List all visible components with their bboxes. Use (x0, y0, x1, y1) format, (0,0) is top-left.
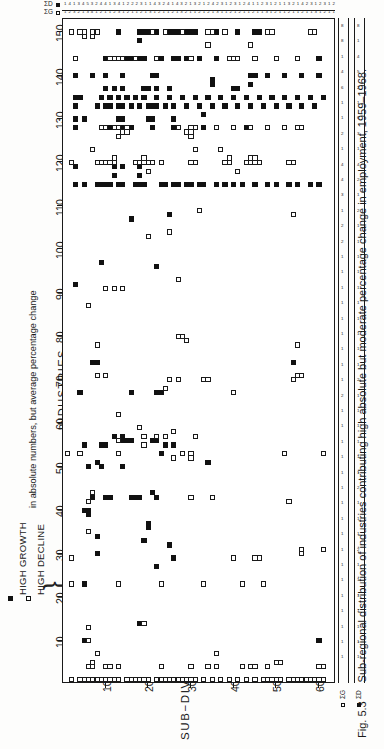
point-high-decline (193, 434, 198, 439)
point-high-growth (291, 360, 296, 365)
point-high-decline (124, 129, 129, 134)
top-marginal-value: 1 (149, 2, 151, 6)
point-high-growth (218, 95, 223, 100)
top-marginal-rule (62, 18, 335, 19)
top-marginal-value: 3 (234, 2, 236, 6)
point-high-decline (252, 677, 257, 682)
top-marginal-value: 1 (270, 2, 272, 6)
point-high-growth (99, 260, 104, 265)
point-high-growth (316, 56, 321, 61)
point-high-decline (244, 677, 249, 682)
marginal-total-value: 8 (341, 24, 343, 28)
top-marginal-value: 1 (122, 2, 124, 6)
top-marginal-value: 3 (77, 2, 79, 6)
point-high-decline (188, 455, 193, 460)
point-high-decline (201, 677, 206, 682)
point-high-decline (210, 29, 215, 34)
point-high-growth (248, 82, 253, 87)
point-high-growth (154, 564, 159, 569)
point-high-decline (120, 56, 125, 61)
marginal-total-value: 3 (341, 193, 343, 197)
marginal-total-value: 1 (341, 116, 343, 120)
point-high-growth (308, 182, 313, 187)
top-marginal-value: 2 (185, 2, 187, 6)
top-marginal-value: 3 (310, 2, 312, 6)
point-high-growth (73, 103, 78, 108)
point-high-decline (141, 442, 146, 447)
point-high-decline (86, 529, 91, 534)
point-high-growth (316, 182, 321, 187)
point-high-growth (73, 125, 78, 130)
point-high-decline (299, 551, 304, 556)
point-high-decline (95, 373, 100, 378)
point-high-growth (112, 86, 117, 91)
scatter-plot (62, 18, 335, 683)
point-high-growth (299, 103, 304, 108)
marginal-total-value: 1 (341, 563, 343, 567)
point-high-growth (210, 103, 215, 108)
point-high-growth (120, 116, 125, 121)
point-high-decline (69, 555, 74, 560)
point-high-growth (261, 103, 266, 108)
point-high-decline (188, 495, 193, 500)
top-marginal-value: 2 (274, 10, 276, 14)
top-marginal-value: 2 (301, 10, 303, 14)
top-marginal-value: 2 (131, 2, 133, 6)
top-marginal-tag: ΣG (44, 8, 53, 15)
point-high-decline (188, 56, 193, 61)
marginal-total-value: 1 (341, 548, 343, 552)
point-high-growth (295, 95, 300, 100)
point-high-growth (95, 460, 100, 465)
point-high-decline (146, 677, 151, 682)
point-high-growth (73, 182, 78, 187)
top-marginal-tag: ΣD (44, 0, 53, 7)
point-high-decline (252, 56, 257, 61)
top-marginal-value: 1 (203, 2, 205, 6)
point-high-decline (116, 664, 121, 669)
point-high-growth (103, 442, 108, 447)
point-high-growth (154, 103, 159, 108)
marginal-total-column (338, 18, 349, 683)
point-high-growth (197, 56, 202, 61)
marginal-total-value: 1 (341, 147, 343, 151)
point-high-growth (188, 182, 193, 187)
point-high-growth (231, 182, 236, 187)
point-high-decline (265, 125, 270, 130)
point-high-decline (240, 581, 245, 586)
point-high-growth (129, 216, 134, 221)
point-high-decline (248, 42, 253, 47)
point-high-growth (95, 534, 100, 539)
point-high-decline (282, 125, 287, 130)
top-marginal-value: 2 (239, 10, 241, 14)
point-high-decline (235, 677, 240, 682)
point-high-decline (116, 134, 121, 139)
point-high-growth (201, 125, 206, 130)
marginal-symbol-open (341, 703, 345, 707)
top-marginal-value: 3 (265, 2, 267, 6)
top-marginal-value: 4 (247, 2, 249, 6)
point-high-decline (227, 155, 232, 160)
point-high-decline (282, 451, 287, 456)
point-high-decline (299, 125, 304, 130)
top-marginal-value: 3 (73, 10, 75, 14)
point-high-decline (214, 651, 219, 656)
top-marginal-value: 3 (118, 10, 120, 14)
top-marginal-value: 2 (252, 10, 254, 14)
point-high-growth (197, 103, 202, 108)
point-high-decline (103, 373, 108, 378)
point-high-growth (154, 86, 159, 91)
marginal-total-value: 8 (357, 24, 359, 28)
point-high-growth (120, 86, 125, 91)
marginal-total-value: 1 (341, 486, 343, 490)
point-high-decline (222, 29, 227, 34)
top-marginal-value: 4 (154, 2, 156, 6)
top-marginal-value: 2 (136, 2, 138, 6)
legend-note: in absolute numbers, but average percent… (28, 290, 38, 508)
point-high-decline (95, 342, 100, 347)
marginal-total-value: 1 (341, 101, 343, 105)
legend-growth-symbol (8, 596, 13, 601)
top-marginal-value: 1 (145, 2, 147, 6)
point-high-growth (252, 73, 257, 78)
point-high-growth (163, 182, 168, 187)
marginal-total-value: 1 (341, 440, 343, 444)
